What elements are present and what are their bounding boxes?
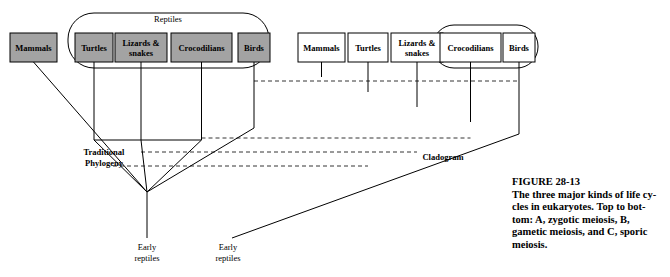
left-taxon-label-turtles: Turtles — [81, 43, 107, 53]
figure-stage: Reptiles Mammals Turtles Lizards & snake… — [0, 0, 670, 277]
left-taxon-label-birds: Birds — [244, 43, 265, 53]
figure-caption-label-a: A, — [535, 214, 545, 225]
right-cladogram-spine — [232, 134, 519, 238]
figure-caption-line3a: tom: — [512, 214, 535, 225]
left-taxon-label-mammals: Mammals — [15, 43, 52, 53]
right-taxon-label-lizards-snakes-line1: Lizards & — [398, 38, 435, 48]
figure-caption-label-b: B, — [620, 214, 630, 225]
left-taxon-label-lizards-snakes-line2: snakes — [129, 48, 154, 58]
figure-caption-label-c: C, — [607, 226, 617, 237]
left-root-label-line2: reptiles — [134, 253, 159, 263]
figure-caption-line4a: gametic meiosis, and — [512, 226, 607, 237]
right-taxon-label-lizards-snakes-line2: snakes — [405, 48, 430, 58]
figure-caption-line3c: zygotic meiosis, — [545, 214, 620, 225]
cladogram-label: Cladogram — [422, 152, 463, 162]
figure-number: FIGURE 28-13 — [512, 176, 580, 187]
figure-caption-line1: The three major kinds of life cy- — [512, 189, 656, 200]
left-branch-mammals — [34, 62, 148, 192]
left-root-label-line1: Early — [138, 242, 157, 252]
figure-caption: FIGURE 28-13 The three major kinds of li… — [512, 176, 664, 252]
right-root-label-line2: reptiles — [215, 253, 240, 263]
left-taxon-label-lizards-snakes-line1: Lizards & — [122, 38, 159, 48]
right-taxon-label-turtles: Turtles — [355, 43, 381, 53]
right-taxon-label-mammals: Mammals — [303, 43, 340, 53]
right-taxon-label-birds: Birds — [509, 43, 530, 53]
traditional-phylogeny-label-line1: Traditional — [84, 147, 126, 157]
figure-caption-line2: cles in eukaryotes. Top to bot- — [512, 201, 646, 212]
reptiles-group-label: Reptiles — [154, 14, 182, 24]
right-taxon-label-crocodilians: Crocodilians — [447, 43, 494, 53]
figure-caption-line5: meiosis. — [512, 239, 547, 250]
traditional-phylogeny-label-line2: Phylogeny — [85, 158, 124, 168]
figure-caption-line4c: sporic — [617, 226, 647, 237]
left-taxon-label-crocodilians: Crocodilians — [178, 43, 225, 53]
right-root-label-line1: Early — [219, 242, 238, 252]
